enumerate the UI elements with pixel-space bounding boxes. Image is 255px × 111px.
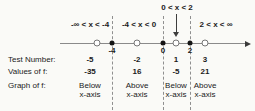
graph-position-label: Above: [194, 81, 217, 90]
graph-position-label: Below: [165, 81, 187, 90]
interval-label: -∞ < x < -4: [71, 20, 109, 29]
test-point-marker: [202, 40, 209, 47]
axis-tick-label: 2: [188, 47, 192, 55]
interval-label: 2 < x < ∞: [200, 20, 233, 29]
table-cell-test-number: 1: [174, 55, 178, 64]
table-cell-f-value: -5: [172, 67, 179, 76]
graph-position-label: Above: [126, 81, 149, 90]
graph-position-label: Below: [79, 81, 101, 90]
table-cell-graph: Below x-axis: [79, 81, 101, 99]
table-cell-graph: Below x-axis: [165, 81, 187, 99]
table-cell-test-number: -2: [133, 55, 140, 64]
axis-tick-label: -4: [108, 47, 115, 55]
test-point-marker: [134, 40, 141, 47]
dashed-separator: [163, 16, 164, 110]
table-cell-test-number: -5: [86, 55, 93, 64]
table-cell-graph: Above x-axis: [126, 81, 149, 99]
arrow-down-icon: [173, 14, 179, 37]
table-cell-f-value: 21: [201, 67, 210, 76]
row-label-values-of-f: Values of f:: [8, 67, 47, 76]
breakpoint-dot: [188, 41, 193, 46]
row-label-test-number: Test Number:: [8, 55, 56, 64]
graph-axis-label: x-axis: [194, 90, 217, 99]
table-cell-test-number: 3: [203, 55, 207, 64]
interval-label: -4 < x < 0: [122, 20, 156, 29]
graph-axis-label: x-axis: [79, 90, 101, 99]
breakpoint-dot: [110, 41, 115, 46]
sign-chart-diagram: -∞ < x < -4 -4 < x < 0 0 < x < 2 2 < x <…: [0, 0, 255, 111]
table-cell-f-value: -35: [84, 67, 96, 76]
number-line-axis: [60, 43, 246, 44]
test-point-marker: [94, 40, 101, 47]
interval-label: 0 < x < 2: [161, 3, 193, 12]
axis-arrowhead-icon: [245, 41, 251, 47]
table-cell-graph: Above x-axis: [194, 81, 217, 99]
axis-tick-label: 0: [161, 47, 165, 55]
table-cell-f-value: 16: [133, 67, 142, 76]
test-point-marker: [173, 40, 180, 47]
graph-axis-label: x-axis: [165, 90, 187, 99]
row-label-graph-of-f: Graph of f:: [8, 81, 46, 90]
dashed-separator: [112, 16, 113, 110]
graph-axis-label: x-axis: [126, 90, 149, 99]
breakpoint-dot: [161, 41, 166, 46]
dashed-separator: [190, 16, 191, 110]
